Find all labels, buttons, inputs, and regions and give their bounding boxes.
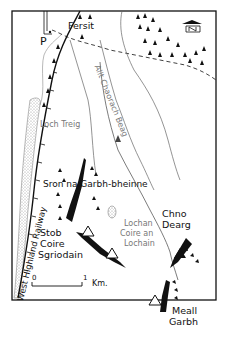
allt-stream-far: [121, 11, 180, 180]
allt-stream-west: [70, 40, 96, 175]
label-parking: P: [40, 36, 47, 47]
label-meall-2: Garbh: [169, 317, 198, 327]
forest-trees: [42, 13, 206, 107]
label-meall-1: Meall: [172, 306, 197, 316]
access-road: [44, 11, 52, 34]
lochan-water: [108, 206, 116, 218]
track-dashed: [52, 30, 216, 80]
label-chno-2: Dearg: [162, 220, 191, 230]
route-map: [0, 0, 225, 344]
label-lochan-1: Lochan: [124, 220, 153, 228]
scale-start: 0: [32, 275, 36, 282]
label-stob-2: Coire: [40, 239, 65, 249]
scale-bar: [32, 282, 82, 286]
scale-end: 1: [83, 275, 87, 282]
label-chno-1: Chno: [162, 209, 187, 219]
label-sron-na-garbh-bheinne: Sron na Garbh-bheinne: [43, 180, 148, 189]
label-stob-1: Stob: [40, 228, 62, 238]
label-lochan-2: Coire an: [120, 230, 153, 238]
ridge-stob: [76, 232, 126, 268]
scale-unit: Km.: [92, 280, 108, 288]
summit-stob: [82, 226, 94, 236]
ridge-sron: [66, 158, 86, 222]
parking-dot: [49, 31, 51, 33]
ridge-meall: [160, 280, 170, 312]
north-arrow-icon: [182, 20, 202, 32]
label-lochan-3: Lochain: [124, 240, 155, 248]
label-stob-3: Sgriodain: [38, 250, 83, 260]
label-fersit: Fersit: [68, 21, 94, 31]
label-loch-treig: Loch Treig: [40, 121, 80, 129]
